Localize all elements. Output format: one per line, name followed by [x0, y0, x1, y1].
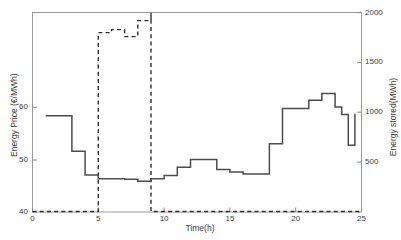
plot-frame: [33, 13, 362, 213]
y-right-tick-1500: 1500: [365, 57, 395, 66]
y-axis-left-title: Energy Price (€/MWh): [9, 77, 19, 157]
x-tick-10: 10: [153, 214, 175, 223]
chart-plot-area: [0, 0, 401, 240]
chart-figure: 40 50 60 500 1000 1500 2000 0 5 10 15 20…: [0, 0, 401, 240]
x-tick-5: 5: [87, 214, 109, 223]
y-right-tick-2000: 2000: [365, 8, 395, 17]
x-tick-15: 15: [219, 214, 241, 223]
x-tick-20: 20: [285, 214, 307, 223]
x-tick-25: 25: [351, 214, 373, 223]
x-axis-title: Time(h): [165, 223, 235, 233]
x-tick-0: 0: [22, 214, 44, 223]
y-axis-right-title: Energy stored(MWh): [388, 72, 398, 162]
